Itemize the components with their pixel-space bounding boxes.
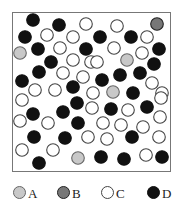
legend-label-b: B <box>72 186 81 202</box>
particle-c <box>49 84 62 97</box>
particle-d <box>27 14 40 27</box>
particle-d <box>153 43 166 56</box>
particle-c <box>16 94 29 107</box>
legend-item-d: D <box>147 182 171 202</box>
particle-d <box>27 108 40 121</box>
particle-d <box>114 69 127 82</box>
particle-d <box>28 131 41 144</box>
circle-a-icon <box>13 186 26 199</box>
particle-d <box>148 58 161 71</box>
particle-d <box>33 157 46 170</box>
particle-c <box>136 47 149 60</box>
particle-c <box>108 42 121 55</box>
particle-d <box>118 153 131 166</box>
particle-c <box>42 117 55 130</box>
particle-b <box>151 18 164 31</box>
particle-c <box>137 121 150 134</box>
particle-c <box>91 56 104 69</box>
particle-c <box>146 77 159 90</box>
particle-c <box>67 54 80 67</box>
particle-d <box>19 31 32 44</box>
particle-d <box>32 43 45 56</box>
particle-c <box>154 111 167 124</box>
particle-c <box>101 133 114 146</box>
particle-c <box>122 104 135 117</box>
particle-a <box>121 54 134 67</box>
particle-d <box>45 56 58 69</box>
particle-d <box>80 43 93 56</box>
particle-c <box>82 131 95 144</box>
particle-d <box>96 74 109 87</box>
particle-a <box>72 152 85 165</box>
particle-c <box>47 144 60 157</box>
particle-diagram <box>0 0 180 180</box>
particle-c <box>141 31 154 44</box>
particle-c <box>155 92 168 105</box>
particle-d <box>57 106 70 119</box>
particle-d <box>105 103 118 116</box>
legend-label-c: C <box>116 186 125 202</box>
particle-d <box>141 101 154 114</box>
particle-c <box>86 102 99 115</box>
circle-d-icon <box>147 186 160 199</box>
legend-item-b: B <box>57 182 81 202</box>
legend-item-c: C <box>101 182 125 202</box>
particle-c <box>57 67 70 80</box>
particle-c <box>41 29 54 42</box>
particle-a <box>14 47 27 60</box>
legend-item-a: A <box>13 182 37 202</box>
particle-c <box>67 31 80 44</box>
particle-d <box>134 67 147 80</box>
particle-c <box>29 84 42 97</box>
particle-c <box>77 71 90 84</box>
legend-label-d: D <box>162 186 171 202</box>
particle-c <box>16 144 29 157</box>
particle-d <box>126 131 139 144</box>
particle-d <box>72 117 85 130</box>
particle-c <box>87 87 100 100</box>
particle-c <box>111 20 124 33</box>
circle-c-icon <box>101 186 114 199</box>
particle-d <box>94 31 107 44</box>
particle-d <box>67 81 80 94</box>
particle-c <box>140 149 153 162</box>
particle-c <box>115 119 128 132</box>
particle-c <box>54 42 67 55</box>
particle-d <box>71 97 84 110</box>
particle-c <box>14 115 27 128</box>
circle-b-icon <box>57 186 70 199</box>
particle-d <box>125 31 138 44</box>
legend: A B C D <box>0 182 180 202</box>
particle-d <box>16 75 29 88</box>
particle-d <box>33 66 46 79</box>
particle-c <box>97 117 110 130</box>
particle-d <box>127 87 140 100</box>
particle-a <box>107 86 120 99</box>
particle-c <box>153 131 166 144</box>
legend-label-a: A <box>28 186 37 202</box>
particle-d <box>59 132 72 145</box>
particle-d <box>53 19 66 32</box>
particle-c <box>80 18 93 31</box>
particle-d <box>156 151 169 164</box>
particle-d <box>95 151 108 164</box>
